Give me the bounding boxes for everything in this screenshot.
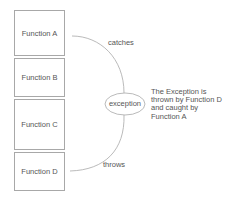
function-c-box: Function C <box>14 99 65 150</box>
throws-edge-label: throws <box>103 160 125 169</box>
function-b-box: Function B <box>14 58 65 97</box>
function-a-label: Function A <box>22 29 57 38</box>
note-line: Function A <box>151 113 231 121</box>
catches-edge-label: catches <box>108 38 134 47</box>
function-d-box: Function D <box>14 152 65 191</box>
function-b-label: Function B <box>22 73 58 82</box>
explanation-note: The Exception is thrown by Function D an… <box>151 88 231 121</box>
function-c-label: Function C <box>21 120 57 129</box>
exception-label: exception <box>105 99 145 108</box>
function-a-box: Function A <box>14 10 65 56</box>
function-d-label: Function D <box>21 167 57 176</box>
